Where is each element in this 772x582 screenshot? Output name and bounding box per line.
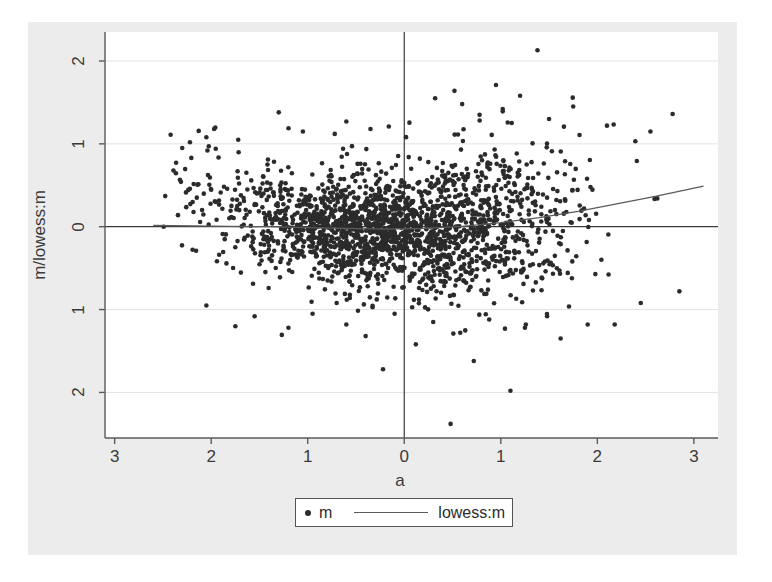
x-tick-label: 0 <box>400 448 409 465</box>
y-axis-title: m/lowess:m <box>30 190 50 280</box>
y-tick-label: 1 <box>70 298 87 322</box>
x-axis-title: a <box>395 471 404 491</box>
scatter-plot-canvas <box>105 32 718 438</box>
scatter-points <box>161 48 681 426</box>
x-tick-label: 3 <box>110 448 119 465</box>
x-tick-label: 3 <box>689 448 698 465</box>
y-tick-label: 1 <box>70 132 87 156</box>
x-tick-label: 1 <box>303 448 312 465</box>
plot-panel <box>105 32 718 438</box>
y-tick-label: 0 <box>70 215 87 239</box>
y-tick-labels: 21012 <box>0 0 98 582</box>
x-tick-label: 2 <box>206 448 215 465</box>
y-tick-label: 2 <box>70 380 87 404</box>
legend-label-smoother: lowess:m <box>438 504 505 522</box>
legend-entry-smoother[interactable]: lowess:m <box>354 499 505 526</box>
legend-label-scatter: m <box>319 504 332 522</box>
filled-circle-icon <box>305 510 311 516</box>
x-tick-label: 1 <box>496 448 505 465</box>
x-tick-label: 2 <box>593 448 602 465</box>
legend-entry-scatter[interactable]: m <box>305 499 332 526</box>
y-tick-label: 2 <box>70 49 87 73</box>
legend[interactable]: m lowess:m <box>295 498 513 527</box>
figure-page: 3210123 21012 a m/lowess:m m lowess:m <box>0 0 772 582</box>
line-segment-icon <box>354 512 428 513</box>
